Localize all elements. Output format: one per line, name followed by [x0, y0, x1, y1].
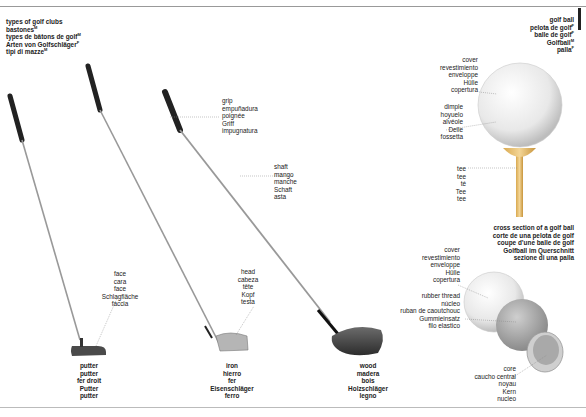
- label-line: iron: [200, 362, 264, 370]
- label-line: testa: [228, 298, 268, 306]
- wood-illustration: [165, 92, 383, 355]
- label-putter: putter putter fer droit Putter putter: [64, 362, 114, 400]
- label-line: impugnatura: [222, 127, 258, 135]
- label-line: asta: [274, 193, 297, 201]
- label-line: cross section of a golf ball: [493, 224, 574, 232]
- title-it: tipi di mazze: [6, 48, 44, 55]
- label-line: cover: [422, 246, 460, 254]
- label-line: alvéole: [441, 118, 463, 126]
- label-line: filo elastico: [400, 322, 460, 330]
- label-line: tête: [228, 283, 268, 291]
- label-line: té: [456, 180, 466, 188]
- label-line: enveloppe: [440, 71, 478, 79]
- label-line: face: [92, 285, 148, 293]
- label-line: caucho central: [474, 373, 516, 381]
- gender-marker: M: [44, 47, 47, 52]
- label-line: ruban de caoutchouc: [400, 307, 460, 315]
- gender-marker: M: [571, 38, 574, 43]
- label-line: face: [92, 270, 148, 278]
- label-line: tee: [456, 195, 466, 203]
- label-line: fer droit: [64, 377, 114, 385]
- label-line: copertura: [422, 276, 460, 284]
- golf-ball-illustration: [478, 63, 562, 217]
- label-line: manche: [274, 178, 297, 186]
- cross-section-title: cross section of a golf ball corte de un…: [493, 224, 574, 262]
- label-line: cover: [440, 56, 478, 64]
- label-wood: wood madera bois Holzschläger legno: [336, 362, 400, 400]
- label-line: Hülle: [422, 269, 460, 277]
- bottom-rule: [0, 407, 586, 408]
- label-line: fer: [200, 377, 264, 385]
- label-line: Holzschläger: [336, 385, 400, 393]
- label-line: corte de una pelota de golf: [493, 232, 574, 240]
- label-line: bois: [336, 377, 400, 385]
- label-line: Eisenschläger: [200, 385, 264, 393]
- label-line: Kern: [474, 388, 516, 396]
- label-iron: iron hierro fer Eisenschläger ferro: [200, 362, 264, 400]
- label-line: madera: [336, 370, 400, 378]
- illustration: [0, 0, 586, 417]
- label-line: tee: [456, 165, 466, 173]
- title-es: bastones: [6, 26, 34, 33]
- label-tee: tee tee té Tee tee: [456, 165, 466, 203]
- label-line: noyau: [474, 380, 516, 388]
- label-line: Schlagfläche: [92, 293, 148, 301]
- title-fr: types de bâtons de golf: [6, 33, 77, 40]
- label-line: poignée: [222, 112, 258, 120]
- label-line: revestimiento: [440, 64, 478, 72]
- label-line: wood: [336, 362, 400, 370]
- golf-ball-es: pelota de golf: [530, 24, 572, 31]
- label-line: revestimiento: [422, 254, 460, 262]
- golf-ball-en: golf ball: [530, 16, 574, 24]
- label-line: fossetta: [441, 133, 463, 141]
- gender-marker: F: [572, 23, 574, 28]
- label-line: legno: [336, 392, 400, 400]
- putter-illustration: [10, 96, 106, 356]
- gender-marker: M: [34, 25, 37, 30]
- label-face: face cara face Schlagfläche faccia: [92, 270, 148, 308]
- label-line: cara: [92, 278, 148, 286]
- label-core: core caucho central noyau Kern nucleo: [474, 365, 516, 403]
- label-rubber-thread: rubber thread núcleo ruban de caoutchouc…: [400, 292, 460, 330]
- label-line: empuñadura: [222, 105, 258, 113]
- gender-marker: F: [572, 45, 574, 50]
- label-line: coupe d’une balle de golf: [493, 239, 574, 247]
- label-line: mango: [274, 171, 297, 179]
- golf-ball-de: Golfball: [547, 39, 571, 46]
- label-line: ferro: [200, 392, 264, 400]
- gender-marker: M: [77, 32, 80, 37]
- label-line: Golfball im Querschnitt: [493, 247, 574, 255]
- label-line: Schaft: [274, 186, 297, 194]
- label-line: putter: [64, 362, 114, 370]
- label-line: core: [474, 365, 516, 373]
- label-line: grip: [222, 97, 258, 105]
- label-line: head: [228, 268, 268, 276]
- label-line: Tee: [456, 188, 466, 196]
- label-line: putter: [64, 370, 114, 378]
- label-line: hoyuelo: [441, 111, 463, 119]
- label-cover-top: cover revestimiento enveloppe Hülle cope…: [440, 56, 478, 94]
- label-line: faccia: [92, 300, 148, 308]
- label-line: núcleo: [400, 300, 460, 308]
- label-line: enveloppe: [422, 261, 460, 269]
- label-line: hierro: [200, 370, 264, 378]
- page-title: types of golf clubs bastonesM types de b…: [6, 18, 81, 56]
- label-dimple: dimple hoyuelo alvéole Delle fossetta: [441, 103, 463, 141]
- golf-ball-fr: balle de golf: [534, 31, 571, 38]
- label-line: tee: [456, 173, 466, 181]
- label-line: Griff: [222, 120, 258, 128]
- gender-marker: F: [77, 40, 79, 45]
- label-line: shaft: [274, 163, 297, 171]
- label-shaft: shaft mango manche Schaft asta: [274, 163, 297, 201]
- label-line: Putter: [64, 385, 114, 393]
- label-line: putter: [64, 392, 114, 400]
- label-head: head cabeza tête Kopf testa: [228, 268, 268, 306]
- label-line: sezione di una palla: [493, 254, 574, 262]
- label-grip: grip empuñadura poignée Griff impugnatur…: [222, 97, 258, 135]
- label-line: Gummieinsatz: [400, 315, 460, 323]
- golf-ball-title: golf ball pelota de golfF balle de golfF…: [530, 16, 574, 54]
- label-line: Hülle: [440, 79, 478, 87]
- label-line: Delle: [441, 126, 463, 134]
- label-line: copertura: [440, 86, 478, 94]
- label-line: nucleo: [474, 395, 516, 403]
